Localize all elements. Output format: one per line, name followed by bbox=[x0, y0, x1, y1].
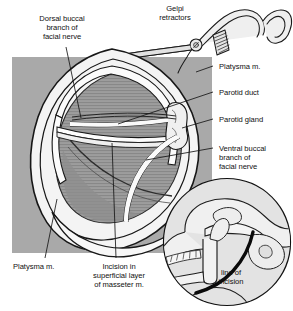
label-dorsal-buccal-branch: Dorsal buccal branch of facial nerve bbox=[10, 14, 114, 42]
label-parotid-duct: Parotid duct bbox=[219, 88, 293, 97]
label-parotid-gland: Parotid gland bbox=[219, 115, 293, 124]
label-line-of-incision: line of incision bbox=[203, 268, 259, 286]
label-ventral-buccal-branch: Ventral buccal branch of facial nerve bbox=[219, 144, 293, 172]
label-incision-superficial-masseter: Incision in superficial layer of massete… bbox=[77, 262, 161, 290]
surgical-anatomy-figure: Dorsal buccal branch of facial nerve Gel… bbox=[0, 0, 293, 311]
label-gelpi-retractors: Gelpi retractors bbox=[144, 4, 206, 22]
label-platysma-muscle-right: Platysma m. bbox=[219, 62, 293, 71]
label-platysma-muscle-bottom: Platysma m. bbox=[13, 262, 87, 271]
